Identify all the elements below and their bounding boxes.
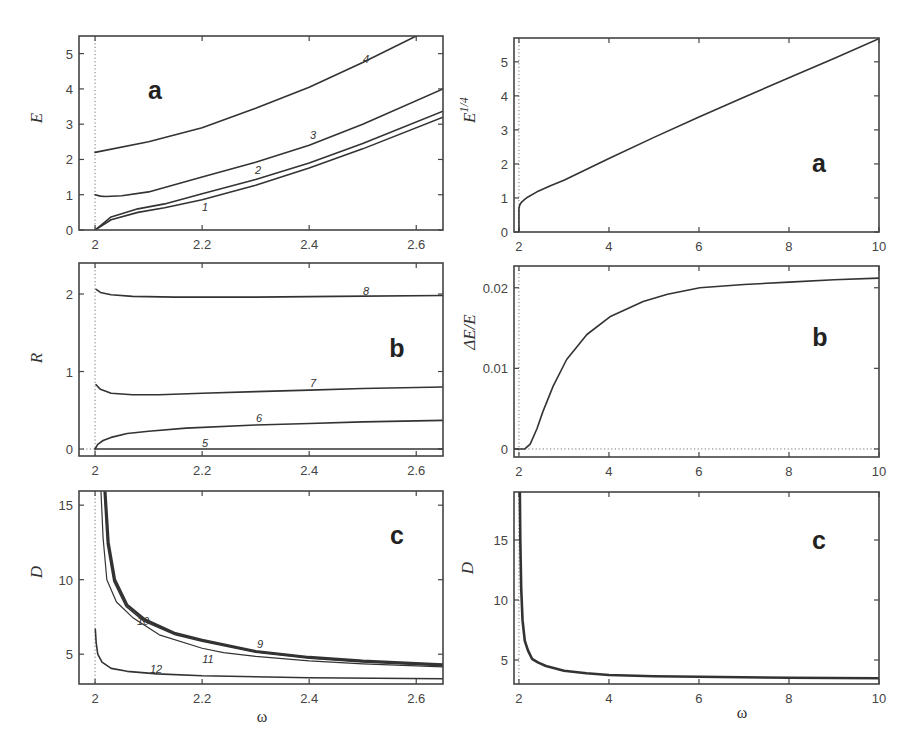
chart-panel-right-a: 246810012345aE1/4 (457, 38, 886, 254)
x-tick-label: 6 (695, 691, 702, 706)
y-tick-label: 5 (66, 47, 73, 62)
chart-panel-left-c: 22.22.42.6510159101112cDω (27, 491, 443, 725)
curve-label: 9 (257, 638, 263, 650)
y-axis-label: E (27, 112, 46, 124)
plot-frame (514, 492, 879, 684)
curve-label: 6 (256, 412, 263, 424)
plot-frame (79, 491, 443, 684)
curve-label: 5 (202, 437, 209, 449)
series-curve-6 (95, 420, 443, 449)
y-tick-label: 3 (501, 123, 508, 138)
panel-letter: a (812, 149, 827, 177)
series-curve-2 (95, 111, 443, 230)
chart-panel-left-b: 22.22.42.60125678bR (27, 263, 443, 478)
series-group (519, 39, 879, 232)
y-tick-label: 0 (66, 442, 73, 457)
y-tick-label: 2 (66, 152, 73, 167)
chart-panel-left-a: 22.22.42.60123451234aE (27, 36, 443, 252)
x-tick-label: 8 (785, 239, 792, 254)
x-tick-label: 10 (872, 464, 886, 479)
series-group (520, 492, 879, 678)
series-group (95, 289, 443, 449)
series-curve-11 (101, 491, 443, 667)
x-tick-label: 2 (515, 691, 522, 706)
series-curve-E14 (519, 39, 879, 232)
curve-label: 8 (363, 285, 370, 297)
y-tick-label: 1 (501, 191, 508, 206)
series-group (95, 36, 443, 230)
y-tick-label: 10 (59, 573, 73, 588)
y-tick-label: 10 (494, 593, 508, 608)
y-tick-label: 3 (66, 117, 73, 132)
y-tick-label: 2 (66, 287, 73, 302)
series-curve-1 (95, 117, 443, 230)
x-tick-label: 2 (515, 239, 522, 254)
y-tick-label: 5 (66, 647, 73, 662)
x-tick-label: 2 (91, 463, 98, 478)
chart-panel-right-b: 24681000.010.02bΔE/E (460, 266, 886, 479)
y-axis-label: D (458, 561, 477, 575)
curve-label: 4 (363, 53, 369, 65)
y-tick-label: 0 (501, 442, 508, 457)
y-axis-label-superscript: 1/4 (457, 97, 471, 112)
series-curve-D (520, 492, 879, 678)
y-tick-label: 0 (501, 225, 508, 240)
x-tick-label: 4 (605, 691, 612, 706)
y-tick-label: 4 (501, 89, 508, 104)
series-curve-EE (514, 278, 879, 449)
y-tick-label: 4 (66, 82, 73, 97)
x-tick-label: 2 (515, 464, 522, 479)
series-curve-7 (96, 385, 443, 395)
y-axis-label: D (27, 565, 46, 579)
curve-label: 12 (150, 663, 162, 675)
y-axis-label: ΔE/E (460, 314, 479, 351)
y-tick-label: 5 (501, 653, 508, 668)
plot-frame (514, 38, 879, 232)
y-tick-label: 15 (59, 498, 73, 513)
y-axis-label: R (27, 352, 46, 364)
plot-frame (514, 266, 879, 457)
series-curve-8 (96, 289, 443, 297)
y-tick-label: 0.01 (483, 361, 508, 376)
y-tick-label: 1 (66, 365, 73, 380)
panel-letter: c (390, 521, 404, 549)
x-tick-label: 6 (695, 464, 702, 479)
x-tick-label: 2.2 (193, 237, 211, 252)
series-group (95, 491, 443, 679)
curve-label: 1 (202, 201, 208, 213)
panel-letter: b (812, 323, 827, 351)
x-tick-label: 4 (605, 239, 612, 254)
y-tick-label: 2 (501, 157, 508, 172)
y-axis-label: E1/4 (457, 97, 479, 124)
x-tick-label: 8 (785, 464, 792, 479)
y-tick-label: 5 (501, 55, 508, 70)
x-tick-label: 8 (785, 691, 792, 706)
curve-label: 7 (310, 377, 317, 389)
y-tick-label: 15 (494, 533, 508, 548)
x-tick-label: 2.4 (300, 237, 318, 252)
y-axis-label-main: E (460, 112, 479, 124)
y-tick-label: 1 (66, 188, 73, 203)
figure-canvas: 22.22.42.60123451234aE22.22.42.60125678b… (0, 0, 915, 754)
panel-letter: b (389, 334, 404, 362)
x-tick-label: 6 (695, 239, 702, 254)
y-tick-label: 0 (66, 223, 73, 238)
curve-label: 11 (202, 653, 213, 665)
series-curve-9 (105, 491, 443, 665)
panel-letter: c (812, 526, 826, 554)
x-tick-label: 2.6 (407, 237, 425, 252)
chart-panel-right-c: 24681051015cDω (458, 492, 886, 721)
x-tick-label: 2.6 (407, 463, 425, 478)
x-tick-label: 2.4 (300, 463, 318, 478)
x-tick-label: 2 (91, 691, 98, 706)
curve-label: 2 (254, 164, 261, 176)
series-group (514, 278, 879, 449)
y-tick-label: 0.02 (483, 281, 508, 296)
x-tick-label: 2.6 (407, 691, 425, 706)
panel-letter: a (148, 76, 163, 104)
x-tick-label: 2.2 (193, 463, 211, 478)
curve-label: 10 (137, 615, 150, 627)
x-tick-label: 10 (872, 239, 886, 254)
x-tick-label: 2.2 (193, 691, 211, 706)
x-axis-label: ω (257, 708, 268, 725)
